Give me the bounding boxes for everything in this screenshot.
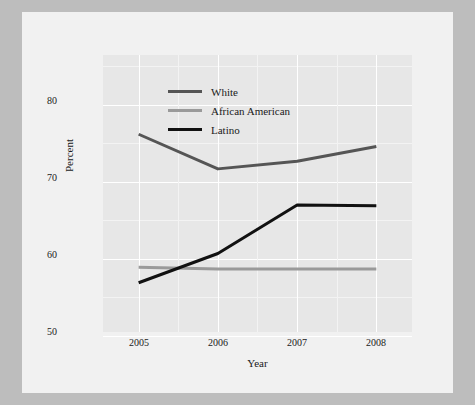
x-axis-title: Year bbox=[103, 357, 412, 369]
y-axis-title: Percent bbox=[63, 139, 75, 172]
y-tick-label-60: 60 bbox=[17, 250, 57, 260]
legend-label-white: White bbox=[211, 86, 238, 98]
chart-page: White African American Latino 80 70 60 5… bbox=[0, 0, 475, 405]
x-tick-label-2007: 2007 bbox=[267, 338, 327, 348]
legend-label-african-american: African American bbox=[211, 105, 290, 117]
y-tick-label-70: 70 bbox=[17, 173, 57, 183]
y-tick-label-80: 80 bbox=[17, 96, 57, 106]
plot-panel: White African American Latino bbox=[103, 55, 412, 332]
series-line-white bbox=[139, 134, 377, 169]
x-tick-label-2005: 2005 bbox=[109, 338, 169, 348]
legend-swatch-latino bbox=[168, 128, 202, 132]
legend: White African American Latino bbox=[168, 82, 328, 139]
figure-canvas: White African American Latino 80 70 60 5… bbox=[22, 12, 453, 393]
series-line-latino bbox=[139, 205, 377, 283]
legend-item-latino[interactable]: Latino bbox=[168, 120, 328, 139]
x-tick-label-2008: 2008 bbox=[346, 338, 406, 348]
legend-swatch-african-american bbox=[168, 109, 202, 113]
legend-swatch-white bbox=[168, 90, 202, 94]
x-tick-label-2006: 2006 bbox=[188, 338, 248, 348]
legend-label-latino: Latino bbox=[211, 124, 240, 136]
y-tick-label-50: 50 bbox=[17, 327, 57, 337]
legend-item-african-american[interactable]: African American bbox=[168, 101, 328, 120]
legend-item-white[interactable]: White bbox=[168, 82, 328, 101]
